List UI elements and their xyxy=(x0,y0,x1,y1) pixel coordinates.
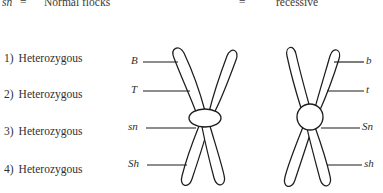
chromosome-diagram xyxy=(0,0,383,193)
chromatid-arm-upper-right xyxy=(315,50,340,110)
chromatid-arm-upper-left xyxy=(287,47,310,108)
chromatid-arm-upper-right xyxy=(209,50,237,113)
centromere-right xyxy=(297,104,323,130)
chromatid-arm-upper-left xyxy=(173,48,205,112)
chromatid-arm-lower-left xyxy=(284,127,312,186)
chromatid-arm-lower-right xyxy=(307,127,331,186)
centromere-left xyxy=(189,109,221,127)
chromatid-arm-lower-right xyxy=(202,126,225,185)
right-chromosome xyxy=(284,47,339,186)
